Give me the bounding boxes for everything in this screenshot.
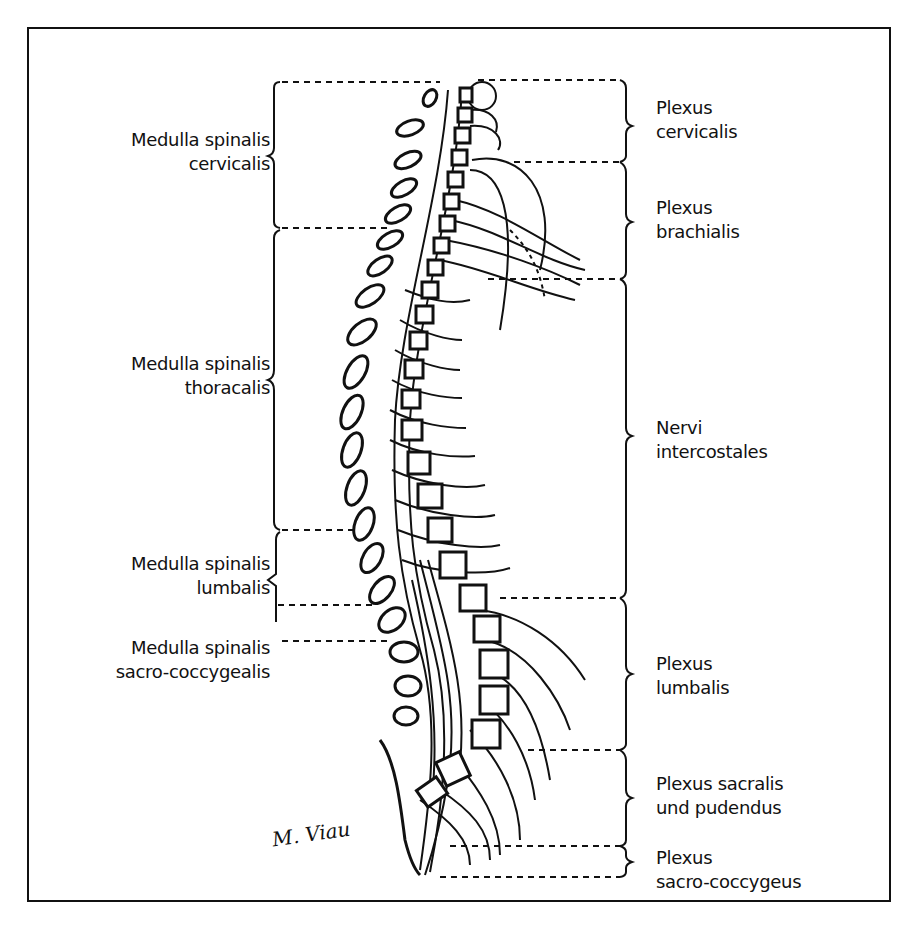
label-plexus-sacralis: Plexus sacralis und pudendus [656,772,783,820]
right-bracket-intercostales [500,279,632,598]
label-medulla-lumbalis: Medulla spinalis lumbalis [131,552,270,600]
brachial-plexus [440,200,585,300]
right-bracket-cervicalis [478,80,632,162]
right-bracket-sacro-coccygeus [440,846,632,877]
cervical-plexus [468,82,545,330]
label-plexus-brachialis: Plexus brachialis [656,196,740,244]
vertebral-bodies [402,88,508,807]
left-bracket-lumbalis [268,532,376,622]
label-plexus-cervicalis: Plexus cervicalis [656,96,737,144]
label-nervi-intercostales: Nervi intercostales [656,416,767,464]
label-medulla-thoracalis: Medulla spinalis thoracalis [131,352,270,400]
label-plexus-sacro-coccygeus: Plexus sacro-coccygeus [656,846,801,894]
label-medulla-sacro-coccygealis: Medulla spinalis sacro-coccygealis [116,636,270,684]
right-bracket-sacralis [450,750,632,846]
label-plexus-lumbalis: Plexus lumbalis [656,652,729,700]
label-medulla-cervicalis: Medulla spinalis cervicalis [131,128,270,176]
